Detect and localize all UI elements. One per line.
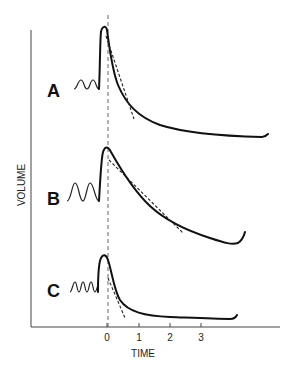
curve-b-oscillations: [67, 183, 99, 201]
x-tick-label-1: 1: [136, 332, 142, 343]
x-axis-label: TIME: [131, 348, 155, 359]
curve-b: [99, 148, 245, 244]
panel-label-b: B: [47, 189, 60, 209]
panel-label-c: C: [47, 281, 60, 301]
x-tick-label-2: 2: [167, 332, 173, 343]
panel-label-a: A: [47, 81, 60, 101]
curve-a-oscillations: [74, 80, 99, 89]
x-tick-label-0: 0: [104, 332, 110, 343]
x-tick-label-3: 3: [198, 332, 204, 343]
tangent-c: [108, 278, 125, 318]
y-axis-label: VOLUME: [16, 164, 27, 207]
curve-c: [98, 255, 237, 319]
curve-a: [99, 27, 268, 137]
curve-c-oscillations: [70, 282, 98, 292]
volume-time-chart: 0 1 2 3 TIME VOLUME A B C: [0, 0, 298, 367]
